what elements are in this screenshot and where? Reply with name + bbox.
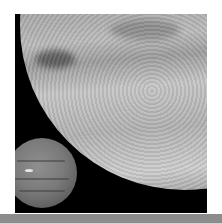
space-photo [15,14,207,213]
cloud-band [17,160,65,162]
dark-region [35,50,75,68]
neptune-planet [15,138,77,208]
bottom-bar [0,214,222,223]
dark-region [110,20,180,40]
cloud-band [19,190,65,192]
bright-cloud-spot [25,169,33,172]
cloud-band [15,178,69,180]
